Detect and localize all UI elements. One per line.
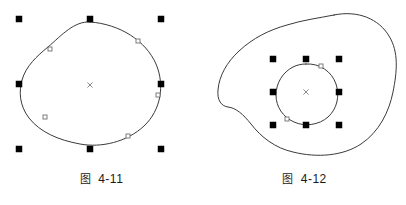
illustration-canvas: 图4-11 图4-12	[0, 0, 406, 205]
figure-caption-4-12: 图4-12	[203, 170, 406, 186]
handle-bottom-center[interactable]	[303, 122, 309, 128]
node-inner-bottom[interactable]	[285, 117, 289, 121]
handle-middle-left[interactable]	[16, 81, 22, 87]
handle-bottom-left[interactable]	[270, 122, 276, 128]
handle-top-right[interactable]	[336, 56, 342, 62]
node-upper-right[interactable]	[136, 39, 140, 43]
figure-caption-4-11: 图4-11	[0, 170, 203, 186]
caption-number-text: 4-12	[301, 172, 327, 186]
handle-top-left[interactable]	[16, 16, 22, 22]
center-marker-icon	[87, 82, 92, 87]
handle-bottom-right[interactable]	[336, 122, 342, 128]
outer-shape-outline-4-12	[218, 14, 396, 156]
node-right[interactable]	[156, 93, 160, 97]
handle-bottom-right[interactable]	[158, 146, 164, 152]
node-lower-right[interactable]	[126, 134, 130, 138]
handle-middle-right[interactable]	[336, 89, 342, 95]
inner-shape-outline-4-12	[276, 64, 338, 125]
caption-label-text: 图	[80, 170, 92, 186]
node-left[interactable]	[43, 115, 47, 119]
center-marker-icon	[303, 89, 308, 94]
handle-top-left[interactable]	[270, 56, 276, 62]
node-inner-top[interactable]	[319, 64, 323, 68]
figure-panel-4-12: 图4-12	[203, 0, 406, 205]
vector-object-4-11	[0, 0, 203, 170]
handle-bottom-center[interactable]	[87, 146, 93, 152]
handle-top-center[interactable]	[87, 16, 93, 22]
handle-middle-left[interactable]	[270, 89, 276, 95]
node-upper-left[interactable]	[48, 47, 52, 51]
caption-label-text: 图	[282, 170, 294, 186]
handle-top-center[interactable]	[303, 56, 309, 62]
figure-panel-4-11: 图4-11	[0, 0, 203, 205]
handle-bottom-left[interactable]	[16, 146, 22, 152]
handle-middle-right[interactable]	[158, 81, 164, 87]
handle-top-right[interactable]	[158, 16, 164, 22]
vector-object-4-12	[203, 0, 406, 170]
caption-number-text: 4-11	[98, 172, 123, 186]
